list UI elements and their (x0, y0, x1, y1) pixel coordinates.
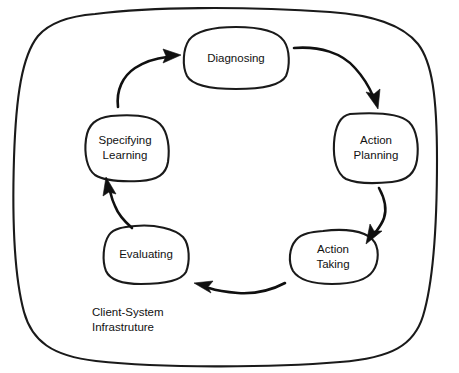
node-label-diagnosing: Diagnosing (207, 52, 265, 64)
node-label-evaluating: Evaluating (119, 248, 173, 260)
action-research-cycle-diagram: Diagnosing Action Planning Action Taking… (0, 0, 459, 373)
node-label-action-planning-line2: Planning (354, 149, 399, 161)
node-label-specifying-learning-line2: Learning (103, 149, 148, 161)
node-shape-action-taking[interactable] (290, 230, 378, 284)
node-label-action-taking-line2: Taking (316, 258, 349, 270)
node-label-action-planning-line1: Action (360, 134, 392, 146)
node-label-specifying-learning-line1: Specifying (98, 134, 151, 146)
diagram-canvas: Diagnosing Action Planning Action Taking… (0, 0, 459, 373)
node-label-action-taking-line1: Action (317, 243, 349, 255)
boundary-label-line2: Infrastruture (92, 321, 154, 333)
boundary-label-line1: Client-System (92, 306, 164, 318)
